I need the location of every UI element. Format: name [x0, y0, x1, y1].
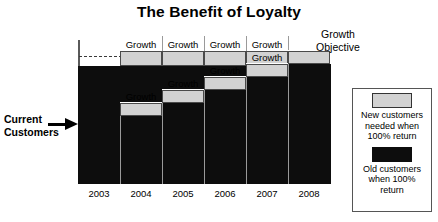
- bar-2007-new-segment: [246, 51, 288, 66]
- arrow-right-icon: [48, 118, 78, 130]
- legend-entry-new-customers: New customers needed when 100% return: [353, 93, 431, 142]
- growth-objective-line2: Objective: [295, 41, 381, 54]
- chart-figure: The Benefit of Loyalty Growth Growth Gr: [0, 0, 438, 222]
- bar-2005: [162, 36, 204, 184]
- legend-new-line1: New customers: [354, 110, 430, 121]
- bar-2006-new-segment: [204, 51, 246, 66]
- bar-2008-old-segment: [288, 66, 330, 184]
- x-tick-2003: 2003: [78, 188, 120, 199]
- page-title: The Benefit of Loyalty: [0, 3, 438, 21]
- chart-legend: New customers needed when 100% return Ol…: [352, 88, 432, 212]
- growth-objective-annotation: Growth Objective: [295, 28, 381, 53]
- bar-2004-new-segment: [120, 51, 162, 66]
- legend-old-line3: return: [354, 185, 430, 196]
- bar-2004-old-segment: [120, 66, 162, 184]
- growth-objective-line1: Growth: [295, 28, 381, 41]
- legend-new-line3: 100% return: [354, 131, 430, 142]
- bar-2008: [288, 36, 330, 184]
- legend-text-new-customers: New customers needed when 100% return: [353, 110, 431, 142]
- legend-old-line2: when 100%: [354, 174, 430, 185]
- bar-2005-growth-label: Growth: [162, 39, 204, 50]
- bar-2003: [78, 66, 120, 184]
- legend-entry-old-customers: Old customers when 100% return: [353, 147, 431, 196]
- bar-2007-old-segment: [246, 66, 288, 184]
- bar-2003-old-segment: [78, 66, 120, 184]
- bar-2006-old-segment: [204, 66, 246, 184]
- x-tick-2008: 2008: [288, 188, 330, 199]
- legend-text-old-customers: Old customers when 100% return: [353, 164, 431, 196]
- x-tick-2005: 2005: [162, 188, 204, 199]
- bar-2007: [246, 36, 288, 184]
- old-customers-swatch-icon: [372, 147, 412, 162]
- new-customers-swatch-icon: [372, 93, 412, 108]
- bar-2006: [204, 36, 246, 184]
- x-tick-2006: 2006: [204, 188, 246, 199]
- bar-2004: [120, 51, 162, 184]
- arrow-head: [65, 118, 78, 130]
- bar-2007-growth-label: Growth: [246, 39, 288, 50]
- legend-new-line2: needed when: [354, 121, 430, 132]
- x-tick-2007: 2007: [246, 188, 288, 199]
- bar-2006-growth-label: Growth: [204, 39, 246, 50]
- x-tick-2004: 2004: [120, 188, 162, 199]
- legend-old-line1: Old customers: [354, 164, 430, 175]
- bar-2004-growth-label: Growth: [120, 39, 162, 50]
- bar-2008-new-segment: [288, 51, 330, 66]
- bar-2005-new-segment: [162, 51, 204, 66]
- plot-area: Growth Growth Growth Growth: [78, 40, 336, 184]
- bar-2005-old-segment: [162, 66, 204, 184]
